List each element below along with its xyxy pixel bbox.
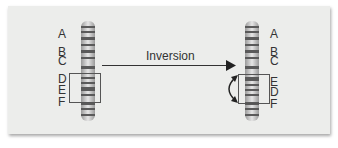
left-box	[69, 73, 101, 103]
right-label-c: C	[270, 55, 279, 67]
right-label-f: F	[270, 98, 277, 110]
inversion-arrow	[102, 65, 232, 66]
left-chromosome	[76, 20, 100, 122]
arrow-label: Inversion	[146, 49, 195, 63]
left-label-a: A	[58, 28, 66, 40]
arrow-head-icon	[226, 60, 236, 71]
diagram-panel	[8, 6, 330, 134]
right-label-a: A	[270, 28, 278, 40]
left-label-f: F	[58, 96, 65, 108]
left-label-c: C	[58, 55, 67, 67]
right-chromosome	[240, 20, 264, 122]
flip-arrows-icon	[218, 74, 240, 104]
right-box	[238, 74, 270, 104]
